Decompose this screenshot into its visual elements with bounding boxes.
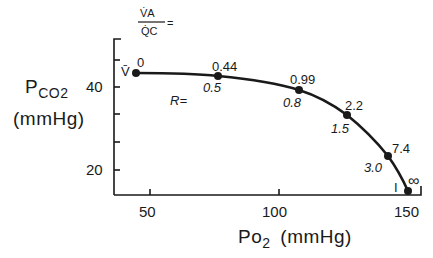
r-value-0-5: 0.5 (203, 80, 221, 95)
x-axis-title-unit: (mmHg) (280, 226, 352, 247)
r-value-0-8: 0.8 (283, 95, 301, 110)
va-q-value-infinity: ∞ (408, 172, 419, 190)
point-7-4 (384, 152, 392, 160)
x-tick-150: 150 (394, 203, 419, 220)
point-venous (132, 69, 140, 77)
r-value-1-5: 1.5 (331, 121, 349, 136)
label-inspired: I (394, 180, 398, 195)
r-value-3-0: 3.0 (364, 160, 382, 175)
va-q-header-numerator: V̇A (140, 7, 155, 19)
x-axis-line (114, 186, 421, 195)
x-tick-50: 50 (139, 203, 156, 220)
va-q-value-0: 0 (137, 55, 144, 70)
y-axis-line (114, 39, 121, 195)
label-venous: V̄ (121, 64, 130, 79)
va-q-value-2-2: 2.2 (345, 98, 363, 113)
x-axis-title: Po2 (mmHg) (238, 226, 352, 248)
y-axis-title-main: P (25, 76, 38, 97)
y-axis-title: PCO2 (25, 76, 68, 98)
point-0-99 (295, 86, 303, 94)
x-tick-100: 100 (262, 203, 287, 220)
x-axis-title-sub: 2 (262, 235, 270, 251)
y-axis-title-sub: CO2 (38, 85, 68, 101)
y-tick-40: 40 (86, 78, 103, 95)
x-axis-title-main: Po (238, 226, 262, 247)
r-header: R= (170, 93, 187, 108)
data-points (132, 69, 412, 195)
y-axis-unit: (mmHg) (13, 108, 85, 130)
y-tick-20: 20 (86, 161, 103, 178)
va-q-value-0-44: 0.44 (212, 59, 237, 74)
va-q-header-denominator: Q̇C (141, 25, 158, 37)
va-q-value-0-99: 0.99 (290, 72, 315, 87)
va-q-header-equals: = (167, 17, 173, 29)
va-q-value-7-4: 7.4 (392, 141, 410, 156)
